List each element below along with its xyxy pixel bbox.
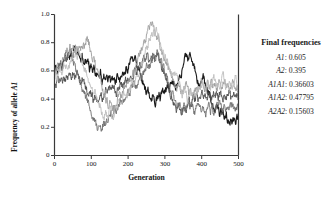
legend-value: : 0.395 [285,66,306,75]
legend-rows: A1: 0.605A2: 0.395A1A1: 0.36603A1A2: 0.4… [248,53,334,116]
legend-genotype: A1A2 [268,93,285,102]
chart-plot-area: Frequency of allele A1 Generation 010020… [0,0,246,197]
x-axis-title: Generation [119,173,175,182]
x-tick-label: 0 [46,160,64,168]
x-tick-label: 100 [82,160,100,168]
legend-genotype: A1A1 [268,80,285,89]
legend-row: A1A1: 0.36603 [248,80,334,89]
y-tick-label: 0.4 [27,95,50,103]
x-tick-label: 200 [119,160,137,168]
legend-value: : 0.15603 [285,107,314,116]
legend-value: : 0.36603 [285,80,314,89]
legend-row: A1A2: 0.47795 [248,93,334,102]
series-line-5 [55,27,239,120]
x-tick-label: 300 [156,160,174,168]
x-tick-label: 500 [230,160,248,168]
y-tick-label: 0.6 [27,66,50,74]
legend-value: : 0.47795 [285,93,314,102]
legend-row: A1: 0.605 [248,53,334,62]
figure-genetic-drift: Frequency of allele A1 Generation 010020… [0,0,334,197]
legend-row: A2A2: 0.15603 [248,107,334,116]
legend-genotype: A2 [276,66,284,75]
series-group [55,22,239,132]
y-axis-title: Frequency of allele A1 [10,81,19,151]
y-tick-label: 0 [27,151,50,159]
y-tick-label: 0.8 [27,38,50,46]
legend-row: A2: 0.395 [248,66,334,75]
legend-genotype: A1 [276,53,284,62]
y-tick-label: 1.0 [27,10,50,18]
y-tick-label: 0.2 [27,123,50,131]
legend-title: Final frequencies [248,38,334,47]
legend-genotype: A2A2 [268,107,285,116]
x-tick-label: 400 [193,160,211,168]
final-frequencies-legend: Final frequencies A1: 0.605A2: 0.395A1A1… [248,38,334,120]
legend-value: : 0.605 [285,53,306,62]
